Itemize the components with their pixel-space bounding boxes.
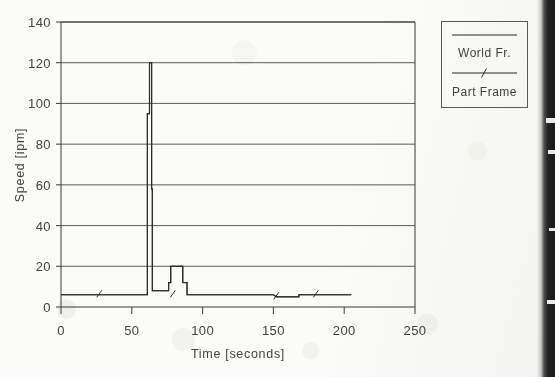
chart-legend: World Fr. Part Frame [442, 22, 528, 108]
x-tick-label-150: 150 [262, 323, 285, 338]
speed-vs-time-chart: 020406080100120140 050100150200250 Time … [0, 0, 555, 377]
y-tick-label-0: 0 [43, 300, 51, 315]
y-tick-label-60: 60 [36, 178, 51, 193]
x-tick-label-200: 200 [333, 323, 356, 338]
axis-lines [61, 22, 415, 307]
y-axis-tick-labels: 020406080100120140 [28, 15, 51, 315]
x-tick-label-100: 100 [191, 323, 214, 338]
series-line-part-frame [61, 63, 351, 297]
x-tick-label-50: 50 [124, 323, 139, 338]
legend-label-world-fr: World Fr. [458, 46, 511, 60]
x-tick-label-0: 0 [57, 323, 65, 338]
x-axis-tick-labels: 050100150200250 [57, 323, 426, 338]
series-marker-0 [97, 290, 102, 297]
y-axis-ticks [56, 22, 61, 307]
y-tick-label-120: 120 [28, 56, 51, 71]
series-line-world-fr [61, 63, 351, 297]
y-tick-label-40: 40 [36, 219, 51, 234]
data-series-group [61, 63, 351, 300]
y-tick-label-100: 100 [28, 96, 51, 111]
x-axis-ticks [61, 307, 415, 314]
series-marker-3 [313, 290, 318, 297]
y-tick-label-80: 80 [36, 137, 51, 152]
series-marker-1 [170, 290, 175, 297]
x-tick-label-250: 250 [404, 323, 427, 338]
gridlines [61, 22, 415, 266]
x-axis-title: Time [seconds] [191, 347, 285, 361]
y-tick-label-140: 140 [28, 15, 51, 30]
legend-label-part-frame: Part Frame [452, 85, 517, 99]
scanned-chart-page: 020406080100120140 050100150200250 Time … [0, 0, 555, 377]
y-axis-title: Speed [ipm] [13, 128, 27, 202]
y-tick-label-20: 20 [36, 259, 51, 274]
